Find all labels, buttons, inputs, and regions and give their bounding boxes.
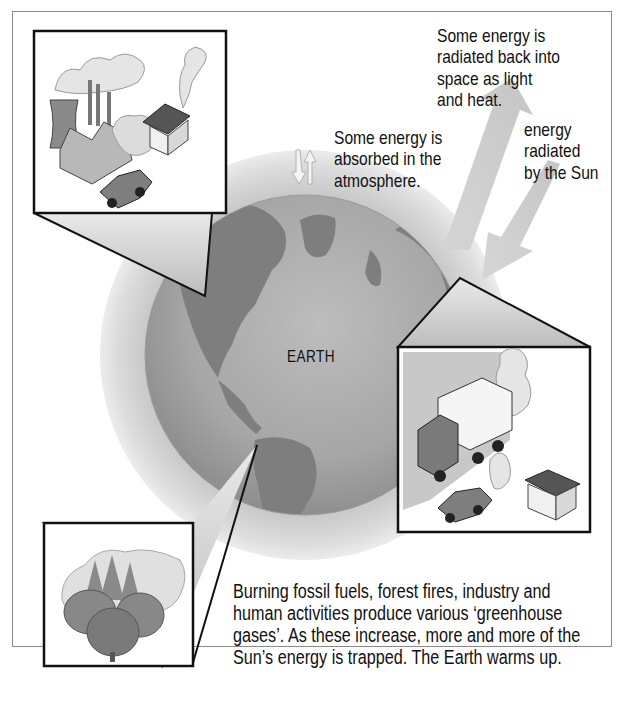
annotation-line: energy [524,119,622,140]
annotation-line: and heat. [437,89,593,110]
caption-line: human activities produce various ‘greenh… [233,602,630,624]
caption: Burning fossil fuels, forest fires, indu… [233,580,630,668]
sun-energy-annotation: energy radiated by the Sun [524,119,622,183]
annotation-line: Some energy is [437,25,593,46]
inset-industry [34,31,226,296]
earth-label: EARTH [287,348,335,366]
annotation-line: Some energy is [334,127,457,148]
annotation-line: space as light [437,68,593,89]
radiated-back-annotation: Some energy is radiated back into space … [437,25,593,110]
caption-line: Burning fossil fuels, forest fires, indu… [233,580,630,602]
annotation-line: by the Sun [524,162,622,183]
caption-line: gases’. As these increase, more and more… [233,624,630,646]
absorbed-annotation: Some energy is absorbed in the atmospher… [334,127,457,191]
annotation-line: radiated [524,140,622,161]
caption-line: Sun’s energy is trapped. The Earth warms… [233,646,630,668]
inset-transport [398,278,590,532]
annotation-line: absorbed in the [334,148,457,169]
annotation-line: radiated back into [437,46,593,67]
annotation-line: atmosphere. [334,170,457,191]
